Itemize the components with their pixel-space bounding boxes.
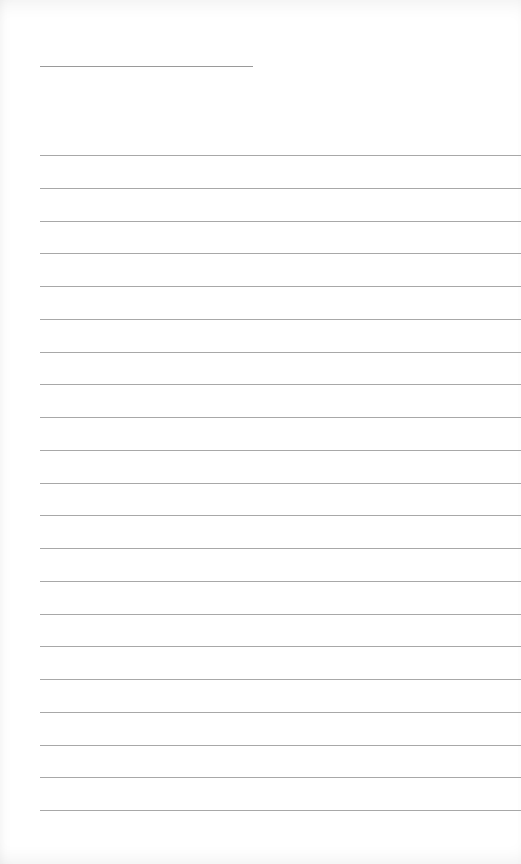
ruled-line (40, 221, 521, 222)
ruled-line (40, 188, 521, 189)
ruled-line (40, 810, 521, 811)
ruled-line (40, 450, 521, 451)
ruled-line (40, 548, 521, 549)
ruled-line (40, 712, 521, 713)
ruled-line (40, 581, 521, 582)
ruled-line (40, 679, 521, 680)
ruled-line (40, 384, 521, 385)
ruled-line (40, 745, 521, 746)
ruled-line (40, 417, 521, 418)
lined-page (0, 0, 521, 864)
ruled-line (40, 515, 521, 516)
ruled-line (40, 483, 521, 484)
ruled-line (40, 286, 521, 287)
header-rule-line (40, 66, 253, 67)
ruled-line (40, 319, 521, 320)
ruled-line (40, 646, 521, 647)
ruled-line (40, 352, 521, 353)
ruled-line (40, 155, 521, 156)
ruled-line (40, 253, 521, 254)
ruled-line (40, 777, 521, 778)
ruled-line (40, 614, 521, 615)
